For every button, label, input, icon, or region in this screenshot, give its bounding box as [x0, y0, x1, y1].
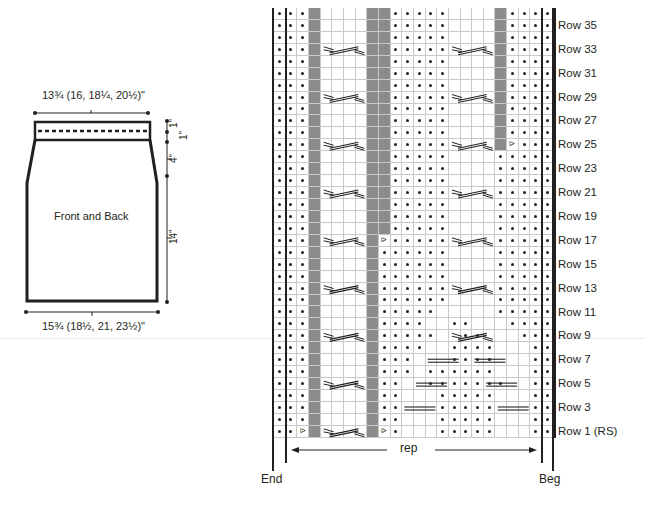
chart-cell	[495, 318, 507, 330]
chart-cell	[495, 259, 507, 271]
chart-cell	[391, 127, 403, 139]
chart-cell	[461, 330, 473, 342]
chart-cell	[414, 426, 426, 438]
chart-cell	[356, 56, 368, 68]
chart-cell	[356, 80, 368, 92]
chart-cell	[495, 330, 507, 342]
chart-cell	[495, 354, 507, 366]
chart-cell	[367, 163, 379, 175]
chart-cell	[426, 92, 438, 104]
chart-cell	[379, 271, 391, 283]
chart-cell	[332, 20, 344, 32]
chart-cell	[309, 402, 321, 414]
chart-cell	[507, 378, 519, 390]
chart-cell	[472, 187, 484, 199]
chart-cell	[332, 104, 344, 116]
row-label: Row 9	[558, 329, 591, 341]
chart-cell	[379, 68, 391, 80]
row-label: Row 21	[558, 186, 597, 198]
chart-cell	[437, 235, 449, 247]
chart-cell	[472, 295, 484, 307]
chart-cell	[332, 127, 344, 139]
chart-cell	[437, 175, 449, 187]
chart-cell	[344, 175, 356, 187]
chart-cell	[461, 187, 473, 199]
chart-cell	[344, 44, 356, 56]
chart-cell	[402, 414, 414, 426]
chart-cell	[391, 378, 403, 390]
chart-cell	[309, 175, 321, 187]
chart-cell	[449, 342, 461, 354]
chart-cell	[507, 115, 519, 127]
chart-cell	[507, 354, 519, 366]
chart-cell	[519, 32, 531, 44]
chart-cell	[437, 32, 449, 44]
chart-cell	[426, 175, 438, 187]
chart-cell	[332, 92, 344, 104]
chart-cell	[356, 247, 368, 259]
chart-cell	[484, 20, 496, 32]
chart-cell	[332, 426, 344, 438]
chart-cell	[321, 235, 333, 247]
chart-cell	[484, 115, 496, 127]
chart-cell	[309, 330, 321, 342]
chart-cell	[367, 283, 379, 295]
chart-cell	[402, 330, 414, 342]
chart-cell	[367, 271, 379, 283]
chart-cell	[507, 32, 519, 44]
row-label: Row 27	[558, 114, 597, 126]
chart-cell	[356, 235, 368, 247]
chart-cell	[391, 330, 403, 342]
chart-cell	[356, 139, 368, 151]
chart-cell	[286, 163, 298, 175]
chart-cell	[344, 342, 356, 354]
chart-cell	[484, 44, 496, 56]
chart-cell	[297, 223, 309, 235]
row-label: Row 15	[558, 258, 597, 270]
chart-cell	[356, 259, 368, 271]
chart-cell	[309, 115, 321, 127]
chart-cell	[402, 8, 414, 20]
chart-cell	[414, 330, 426, 342]
chart-cell	[274, 163, 286, 175]
chart-cell	[461, 104, 473, 116]
chart-cell	[414, 151, 426, 163]
chart-cell	[472, 127, 484, 139]
chart-cell	[367, 402, 379, 414]
chart-cell	[414, 247, 426, 259]
chart-cell	[391, 80, 403, 92]
chart-cell	[379, 211, 391, 223]
chart-cell	[379, 175, 391, 187]
chart-cell	[321, 175, 333, 187]
chart-cell	[297, 68, 309, 80]
chart-cell	[426, 163, 438, 175]
chart-cell	[472, 56, 484, 68]
chart-cell	[495, 127, 507, 139]
chart-cell	[286, 92, 298, 104]
chart-cell	[461, 235, 473, 247]
chart-cell	[297, 32, 309, 44]
rep-label: rep	[400, 441, 417, 455]
chart-cell	[402, 187, 414, 199]
chart-cell	[286, 366, 298, 378]
chart-cell	[379, 8, 391, 20]
chart-cell	[321, 187, 333, 199]
chart-cell	[484, 247, 496, 259]
chart-cell	[344, 271, 356, 283]
chart-cell	[472, 342, 484, 354]
chart-cell	[309, 199, 321, 211]
chart-cell	[274, 342, 286, 354]
chart-cell	[274, 211, 286, 223]
chart-cell	[379, 199, 391, 211]
chart-cell	[297, 354, 309, 366]
beg-line	[552, 8, 554, 471]
chart-cell	[391, 139, 403, 151]
chart-cell	[356, 414, 368, 426]
chart-cell	[472, 139, 484, 151]
chart-cell	[437, 426, 449, 438]
chart-cell	[507, 211, 519, 223]
chart-cell	[379, 330, 391, 342]
chart-cell	[461, 8, 473, 20]
chart-cell	[286, 151, 298, 163]
chart-cell	[321, 283, 333, 295]
